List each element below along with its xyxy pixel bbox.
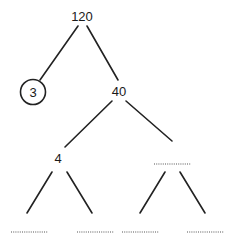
edge-4-to-leaf1 (27, 172, 52, 213)
node-4: 4 (54, 151, 61, 166)
edge-120-to-40 (87, 26, 118, 80)
node-40: 40 (112, 84, 126, 99)
node-prime-3: 3 (29, 85, 36, 100)
factor-tree-svg: 120 3 40 4 (0, 0, 229, 245)
edge-blank-to-leaf3 (140, 172, 165, 213)
edge-40-to-4 (65, 101, 112, 147)
node-root-120: 120 (71, 9, 93, 24)
edge-40-to-blank (126, 101, 172, 141)
factor-tree-diagram: 120 3 40 4 (0, 0, 229, 245)
edge-120-to-3 (40, 26, 78, 80)
edge-4-to-leaf2 (67, 172, 92, 213)
edge-blank-to-leaf4 (180, 172, 205, 213)
